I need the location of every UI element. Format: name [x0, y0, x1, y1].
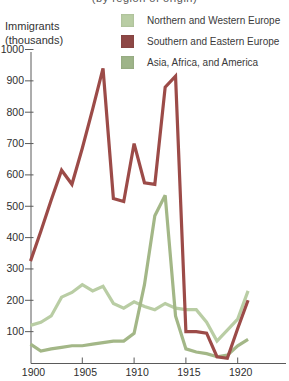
series-line-asia-africa-and-america	[31, 195, 249, 356]
y-tick-label: 400	[6, 231, 24, 243]
x-tick-label: 1920	[229, 366, 253, 378]
y-tick-label: 700	[6, 137, 24, 149]
y-tick-label: 1000	[1, 43, 25, 55]
y-tick-label: 300	[6, 262, 24, 274]
x-tick-label: 1915	[177, 366, 201, 378]
y-tick-label: 600	[6, 168, 24, 180]
y-tick-label: 800	[6, 106, 24, 118]
x-tick-label: 1900	[22, 366, 46, 378]
immigration-chart-figure: (by region of origin) Immigrants (thousa…	[0, 0, 289, 381]
x-tick-label: 1905	[74, 366, 98, 378]
y-tick-label: 100	[6, 325, 24, 337]
x-tick-label: 1910	[125, 366, 149, 378]
chart-canvas: 1002003004005006007008009001000190019051…	[0, 0, 289, 381]
y-tick-label: 900	[6, 74, 24, 86]
y-tick-label: 200	[6, 294, 24, 306]
y-tick-label: 500	[6, 200, 24, 212]
